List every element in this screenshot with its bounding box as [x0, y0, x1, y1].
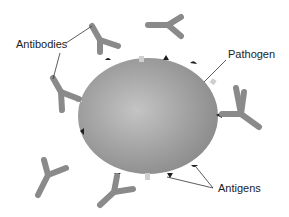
antibody-pathogen-diagram: Antibodies Pathogen Antigens: [0, 0, 289, 217]
pathogen-label: Pathogen: [228, 48, 275, 60]
antigens-label: Antigens: [218, 182, 261, 194]
antigen-marker: [163, 55, 169, 60]
antibody-icon: [148, 17, 181, 36]
antibody-icon: [53, 78, 79, 110]
antibodies-label: Antibodies: [16, 38, 68, 50]
antigen-marker: [190, 61, 197, 64]
antibody-icon: [38, 160, 66, 195]
antibody-icon: [222, 88, 259, 127]
antibody-icon: [92, 26, 118, 52]
antigen-marker: [191, 165, 198, 167]
antigen-marker: [105, 58, 111, 60]
antibody-icon: [100, 176, 133, 205]
pathogen: [78, 58, 218, 174]
